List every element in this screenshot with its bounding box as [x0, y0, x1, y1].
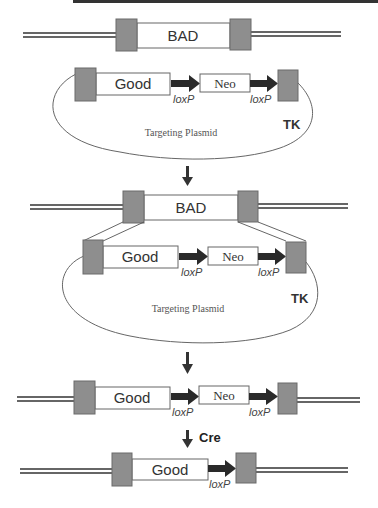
down-arrow-icon — [182, 352, 193, 374]
loxp-arrow-icon — [249, 388, 278, 405]
left-homology-arm — [75, 68, 96, 101]
left-homology-arm — [83, 240, 103, 274]
right-homology-arm — [238, 191, 258, 222]
left-homology-arm — [74, 381, 95, 414]
cre-step: Cre — [182, 430, 221, 448]
neo-gene-label: Neo — [214, 76, 236, 91]
right-homology-arm — [236, 453, 256, 483]
bad-gene-label: BAD — [168, 27, 199, 44]
loxp-label-2: loxP — [249, 406, 271, 418]
loxp-label-2: loxP — [250, 93, 272, 105]
loxp-arrow-icon — [258, 248, 286, 265]
right-homology-arm — [278, 383, 297, 414]
gene-targeting-diagram: BAD Good loxP Neo loxP Targeting Plasmid… — [0, 0, 378, 508]
endogenous-locus: BAD — [23, 19, 341, 51]
plasmid-label: Targeting Plasmid — [145, 127, 218, 138]
loxp-arrow-icon — [171, 388, 199, 405]
neo-gene-label: Neo — [222, 249, 244, 264]
down-arrow-icon — [182, 166, 193, 186]
crossover-line — [238, 222, 286, 241]
targeting-plasmid-1: Good loxP Neo loxP Targeting Plasmid TK — [53, 68, 313, 159]
bad-gene-label: BAD — [176, 199, 207, 216]
crossover-line — [103, 222, 144, 241]
top-border-bar — [73, 0, 378, 3]
left-homology-arm — [116, 19, 137, 51]
targeting-plasmid-2: Good loxP Neo loxP Targeting Plasmid TK — [62, 240, 317, 343]
plasmid-label: Targeting Plasmid — [152, 303, 225, 314]
loxp-label-2: loxP — [258, 266, 280, 278]
right-homology-arm — [286, 242, 306, 273]
loxp-label-1: loxP — [181, 266, 203, 278]
loxp-arrow-icon — [208, 460, 236, 477]
loxp-label-1: loxP — [173, 93, 195, 105]
left-homology-arm — [112, 453, 132, 486]
tk-label: TK — [291, 291, 309, 306]
crossover-line — [258, 222, 306, 241]
crossover-line — [83, 222, 123, 241]
down-arrow-icon — [182, 430, 193, 448]
right-homology-arm — [278, 70, 298, 101]
good-gene-label: Good — [114, 389, 151, 406]
good-gene-label: Good — [152, 461, 189, 478]
right-homology-arm — [230, 19, 251, 50]
loxp-arrow-icon — [171, 75, 200, 92]
neo-gene-label: Neo — [213, 388, 235, 403]
tk-label: TK — [283, 117, 301, 132]
loxp-arrow-icon — [179, 248, 208, 265]
recombination-locus: BAD — [30, 191, 348, 241]
targeted-allele: Good loxP Neo loxP — [17, 381, 360, 418]
loxp-label-1: loxP — [209, 478, 231, 490]
final-allele: Good loxP — [20, 453, 348, 490]
good-gene-label: Good — [115, 75, 152, 92]
loxp-arrow-icon — [250, 75, 278, 92]
good-gene-label: Good — [122, 248, 159, 265]
cre-label: Cre — [199, 430, 221, 445]
loxp-label-1: loxP — [172, 406, 194, 418]
left-homology-arm — [123, 191, 144, 223]
